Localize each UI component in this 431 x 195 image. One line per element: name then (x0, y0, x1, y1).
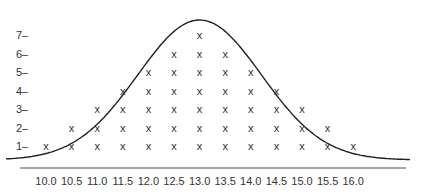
x-marker: x (43, 140, 49, 152)
x-marker: x (248, 103, 254, 115)
x-marker: x (171, 140, 177, 152)
x-marker: x (222, 122, 228, 134)
y-axis-ticks: 1–2–3–4–5–6–7– (16, 29, 29, 152)
x-tick-label: 11.5 (113, 175, 134, 187)
x-marker: x (325, 122, 331, 134)
x-marker: x (146, 103, 152, 115)
x-tick-label: 12.5 (163, 175, 184, 187)
x-axis-ticks: 10.010.511.011.512.012.513.013.514.014.5… (35, 175, 364, 187)
x-tick-label: 15.0 (291, 175, 312, 187)
x-marker: x (248, 122, 254, 134)
x-marker: x (120, 122, 126, 134)
y-tick-label: 2– (16, 122, 29, 134)
x-marker: x (171, 103, 177, 115)
x-marker: x (299, 103, 305, 115)
x-marker: x (222, 85, 228, 97)
x-tick-label: 10.0 (35, 175, 56, 187)
x-marker: x (69, 122, 75, 134)
x-tick-label: 13.0 (189, 175, 210, 187)
x-tick-label: 14.5 (266, 175, 287, 187)
normal-curve (6, 20, 410, 160)
x-marker: x (222, 66, 228, 78)
x-marker: x (146, 66, 152, 78)
x-marker: x (248, 85, 254, 97)
x-tick-label: 16.0 (342, 175, 363, 187)
x-marker: x (171, 48, 177, 60)
x-tick-label: 12.0 (138, 175, 159, 187)
y-tick-label: 3– (16, 103, 29, 115)
x-marker: x (299, 140, 305, 152)
x-tick-label: 11.0 (87, 175, 108, 187)
x-marker: x (197, 85, 203, 97)
x-marker: x (248, 66, 254, 78)
x-tick-label: 13.5 (214, 175, 235, 187)
y-tick-label: 5– (16, 66, 29, 78)
dot-plot-chart: 1–2–3–4–5–6–7– xxxxxxxxxxxxxxxxxxxxxxxxx… (0, 0, 431, 195)
x-marker: x (197, 140, 203, 152)
x-marker: x (94, 103, 100, 115)
x-marker: x (222, 140, 228, 152)
x-marker: x (120, 103, 126, 115)
x-marker: x (120, 140, 126, 152)
y-tick-label: 4– (16, 85, 29, 97)
y-tick-label: 6– (16, 48, 29, 60)
x-marker: x (171, 66, 177, 78)
y-tick-label: 7– (16, 29, 29, 41)
x-marker: x (274, 122, 280, 134)
x-marker: x (197, 29, 203, 41)
x-tick-label: 14.0 (240, 175, 261, 187)
x-marker: x (171, 122, 177, 134)
x-marker: x (197, 103, 203, 115)
x-marker: x (146, 85, 152, 97)
x-tick-label: 15.5 (317, 175, 338, 187)
x-marker: x (274, 103, 280, 115)
x-marker: x (248, 140, 254, 152)
x-marker: x (222, 103, 228, 115)
x-marker: x (146, 122, 152, 134)
x-marker: x (146, 140, 152, 152)
x-marker: x (274, 140, 280, 152)
data-markers: xxxxxxxxxxxxxxxxxxxxxxxxxxxxxxxxxxxxxxxx… (43, 29, 356, 152)
x-marker: x (197, 48, 203, 60)
x-marker: x (197, 66, 203, 78)
x-marker: x (171, 85, 177, 97)
x-marker: x (94, 140, 100, 152)
x-marker: x (350, 140, 356, 152)
x-marker: x (197, 122, 203, 134)
x-marker: x (222, 48, 228, 60)
x-tick-label: 10.5 (61, 175, 82, 187)
y-tick-label: 1– (16, 140, 29, 152)
